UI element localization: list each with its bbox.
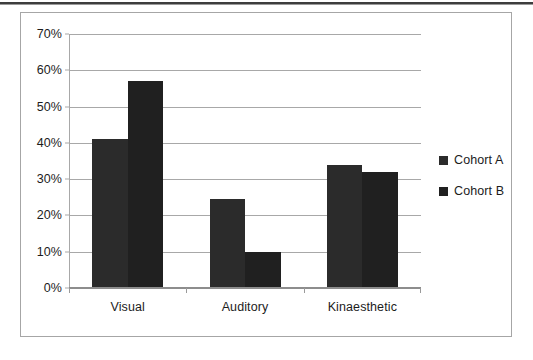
legend-item-cohort-b[interactable]: Cohort B (439, 184, 519, 198)
chart-container: 0%10%20%30%40%50%60%70% VisualAuditoryKi… (20, 12, 512, 337)
category-label-kinaesthetic: Kinaesthetic (328, 300, 397, 314)
gridline (69, 288, 421, 289)
y-axis-tick-mark (65, 70, 69, 71)
bar-visual-cohort-a (92, 139, 128, 288)
category-label-auditory: Auditory (222, 300, 269, 314)
y-axis-tick-label: 0% (44, 281, 62, 295)
bar-auditory-cohort-a (210, 199, 246, 288)
legend-label: Cohort B (454, 184, 504, 198)
x-axis-separator (186, 288, 187, 293)
y-axis-tick-mark (65, 179, 69, 180)
x-axis-separator (304, 288, 305, 293)
square-marker (439, 156, 448, 165)
y-axis-tick-mark (65, 142, 69, 143)
y-axis-tick-label: 70% (37, 27, 62, 41)
y-axis-tick-label: 20% (37, 208, 62, 222)
gridline (69, 107, 421, 108)
y-axis-line (69, 34, 70, 288)
chart-legend: Cohort ACohort B (439, 153, 519, 215)
bar-kinaesthetic-cohort-a (327, 165, 363, 288)
y-axis-tick-label: 50% (37, 100, 62, 114)
category-label-visual: Visual (110, 300, 144, 314)
y-axis-tick-label: 10% (37, 245, 62, 259)
x-axis-separator (69, 288, 70, 293)
y-axis-tick-label: 30% (37, 172, 62, 186)
gridline (69, 34, 421, 35)
bar-kinaesthetic-cohort-b (362, 172, 398, 288)
legend-item-cohort-a[interactable]: Cohort A (439, 153, 519, 167)
y-axis-tick-mark (65, 215, 69, 216)
y-axis-tick-label: 40% (37, 136, 62, 150)
plot-area: 0%10%20%30%40%50%60%70% VisualAuditoryKi… (69, 34, 421, 288)
gridline (69, 70, 421, 71)
square-marker (439, 187, 448, 196)
y-axis-tick-mark (65, 106, 69, 107)
page-top-rule (0, 2, 533, 4)
x-axis-line (69, 287, 421, 288)
legend-label: Cohort A (454, 153, 503, 167)
bar-auditory-cohort-b (245, 252, 281, 288)
y-axis-tick-mark (65, 34, 69, 35)
bar-visual-cohort-b (128, 81, 164, 288)
x-axis-separator (420, 288, 421, 293)
y-axis-tick-mark (65, 251, 69, 252)
y-axis-tick-label: 60% (37, 63, 62, 77)
